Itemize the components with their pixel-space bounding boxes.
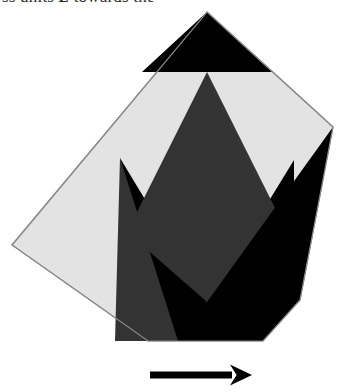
direction-arrow [150, 365, 252, 386]
geometric-figure [0, 0, 355, 392]
figure-page: ss units L towards the [0, 0, 355, 392]
black-apex-triangle [142, 12, 272, 72]
arrow-head-icon [230, 365, 252, 386]
arrow-shaft [150, 372, 232, 379]
